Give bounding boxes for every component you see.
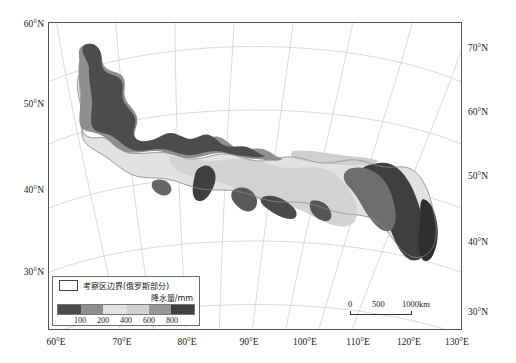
axis-tick-bottom-7: 130°E [445,337,469,347]
legend-ramp-ticks: 100 200 400 600 800 [57,315,195,327]
scale-bar-labels: 0 500 1000km [348,299,444,310]
ramp-cell-2 [103,305,126,314]
map-figure: 60°N 50°N 40°N 30°N 70°N 60°N 50°N 40°N … [0,0,516,363]
axis-tick-right-1: 60°N [468,107,488,117]
scale-bar: 0 500 1000km [348,299,444,321]
legend-color-ramp [57,304,195,315]
ramp-tick-3: 600 [143,316,155,325]
axis-tick-left-1: 50°N [2,99,44,109]
boundary-swatch-icon [59,280,78,291]
legend-boundary-label: 考察区边界(俄罗斯部分) [83,280,169,291]
axis-tick-bottom-1: 70°E [112,337,131,347]
axis-tick-right-0: 70°N [468,43,488,53]
axis-tick-bottom-2: 80°E [177,337,196,347]
axis-tick-bottom-4: 100°E [293,337,317,347]
ramp-tick-4: 800 [166,316,178,325]
legend: 考察区边界(俄罗斯部分) 降水量/mm 100 200 400 600 800 [52,276,200,326]
axis-tick-bottom-3: 90°E [239,337,258,347]
legend-unit-label: 降水量/mm [53,291,199,304]
ramp-cell-0 [58,305,81,314]
ramp-tick-0: 100 [74,316,86,325]
axis-tick-left-2: 40°N [2,185,44,195]
axis-tick-right-3: 40°N [468,237,488,247]
scale-tick-0: 0 [348,299,352,309]
axis-tick-bottom-6: 120°E [397,337,421,347]
ramp-tick-1: 200 [97,316,109,325]
scale-bar-line [350,311,412,315]
legend-boundary-row: 考察区边界(俄罗斯部分) [53,277,199,291]
axis-tick-bottom-5: 110°E [346,337,370,347]
axis-tick-left-0: 60°N [2,19,44,29]
ramp-tick-2: 400 [120,316,132,325]
precip-class-high-patch-d [152,179,172,195]
precip-class-far-east-tail [418,199,437,261]
ramp-cell-3 [126,305,149,314]
axis-tick-right-4: 30°N [468,307,488,317]
axis-tick-left-3: 30°N [2,267,44,277]
ramp-cell-5 [171,305,194,314]
ramp-cell-1 [81,305,104,314]
ramp-cell-4 [149,305,172,314]
axis-tick-bottom-0: 60°E [46,337,65,347]
scale-tick-1: 500 [372,299,385,309]
scale-tick-2: 1000km [402,299,430,309]
axis-tick-right-2: 50°N [468,171,488,181]
precipitation-surface [77,43,437,261]
